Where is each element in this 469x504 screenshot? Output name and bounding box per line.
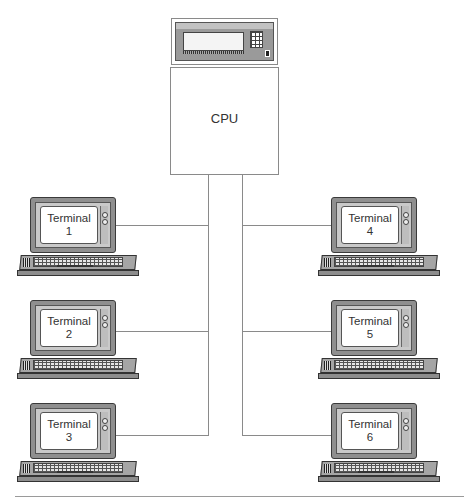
cpu-console-unit bbox=[171, 18, 278, 65]
terminal-number: 6 bbox=[342, 431, 398, 444]
terminal-screen: Terminal 4 bbox=[341, 206, 399, 244]
cpu-console-panel bbox=[175, 22, 274, 61]
terminal-number: 2 bbox=[41, 328, 97, 341]
footer-divider bbox=[15, 496, 464, 497]
terminal-number: 4 bbox=[342, 225, 398, 238]
terminal-screen: Terminal 6 bbox=[341, 412, 399, 450]
control-panel bbox=[100, 206, 108, 244]
monitor-icon: Terminal 6 bbox=[331, 403, 417, 459]
keyboard-icon bbox=[318, 255, 440, 276]
console-bevel bbox=[176, 23, 273, 29]
terminal-4: Terminal 4 bbox=[318, 197, 442, 282]
wire-trunk-right bbox=[242, 175, 243, 436]
knob-icon bbox=[102, 219, 108, 225]
terminal-label: Terminal bbox=[41, 315, 97, 328]
knob-icon bbox=[102, 418, 108, 424]
keyboard-icon bbox=[17, 358, 139, 379]
cpu-box: CPU bbox=[170, 67, 279, 175]
knob-icon bbox=[102, 425, 108, 431]
function-keys bbox=[324, 464, 331, 473]
keyboard-icon bbox=[318, 461, 440, 482]
control-panel bbox=[100, 412, 108, 450]
function-keys bbox=[324, 361, 331, 370]
keyboard-front bbox=[318, 476, 440, 482]
cpu-label: CPU bbox=[171, 111, 278, 126]
spacebar bbox=[57, 471, 93, 473]
monitor-icon: Terminal 3 bbox=[30, 403, 116, 459]
knob-icon bbox=[403, 315, 409, 321]
function-keys bbox=[23, 361, 30, 370]
keypad-icon bbox=[250, 31, 263, 48]
spacebar bbox=[57, 265, 93, 267]
keyboard-front bbox=[318, 373, 440, 379]
terminal-5: Terminal 5 bbox=[318, 300, 442, 385]
knob-icon bbox=[102, 322, 108, 328]
terminal-label: Terminal bbox=[342, 418, 398, 431]
control-panel bbox=[401, 412, 409, 450]
terminal-screen: Terminal 5 bbox=[341, 309, 399, 347]
monitor-icon: Terminal 1 bbox=[30, 197, 116, 253]
knob-icon bbox=[102, 212, 108, 218]
monitor-bezel: Terminal 6 bbox=[336, 408, 412, 454]
knob-icon bbox=[403, 212, 409, 218]
monitor-bezel: Terminal 5 bbox=[336, 305, 412, 351]
keyboard-front bbox=[17, 476, 139, 482]
monitor-bezel: Terminal 4 bbox=[336, 202, 412, 248]
function-keys bbox=[23, 258, 30, 267]
terminal-label: Terminal bbox=[342, 315, 398, 328]
monitor-bezel: Terminal 3 bbox=[35, 408, 111, 454]
terminal-number: 3 bbox=[41, 431, 97, 444]
terminal-label: Terminal bbox=[41, 418, 97, 431]
control-panel bbox=[401, 309, 409, 347]
knob-icon bbox=[403, 219, 409, 225]
terminal-screen: Terminal 1 bbox=[40, 206, 98, 244]
function-keys bbox=[324, 258, 331, 267]
keyboard-icon bbox=[17, 461, 139, 482]
terminal-number: 1 bbox=[41, 225, 97, 238]
wire-trunk-left bbox=[208, 175, 209, 436]
terminal-number: 5 bbox=[342, 328, 398, 341]
terminal-1: Terminal 1 bbox=[17, 197, 141, 282]
monitor-icon: Terminal 5 bbox=[331, 300, 417, 356]
spacebar bbox=[57, 368, 93, 370]
terminal-3: Terminal 3 bbox=[17, 403, 141, 488]
keyboard-icon bbox=[17, 255, 139, 276]
terminal-6: Terminal 6 bbox=[318, 403, 442, 488]
knob-icon bbox=[102, 315, 108, 321]
terminal-2: Terminal 2 bbox=[17, 300, 141, 385]
terminal-screen: Terminal 2 bbox=[40, 309, 98, 347]
power-switch-icon bbox=[265, 50, 270, 57]
knob-icon bbox=[403, 322, 409, 328]
monitor-icon: Terminal 2 bbox=[30, 300, 116, 356]
keyboard-icon bbox=[318, 358, 440, 379]
console-keys-strip bbox=[183, 51, 244, 54]
terminal-label: Terminal bbox=[41, 212, 97, 225]
keyboard-front bbox=[17, 373, 139, 379]
function-keys bbox=[23, 464, 30, 473]
keyboard-front bbox=[318, 270, 440, 276]
control-panel bbox=[401, 206, 409, 244]
spacebar bbox=[358, 471, 394, 473]
console-display-icon bbox=[183, 32, 244, 51]
control-panel bbox=[100, 309, 108, 347]
monitor-icon: Terminal 4 bbox=[331, 197, 417, 253]
spacebar bbox=[358, 265, 394, 267]
monitor-bezel: Terminal 2 bbox=[35, 305, 111, 351]
keyboard-front bbox=[17, 270, 139, 276]
knob-icon bbox=[403, 418, 409, 424]
terminal-screen: Terminal 3 bbox=[40, 412, 98, 450]
terminal-label: Terminal bbox=[342, 212, 398, 225]
knob-icon bbox=[403, 425, 409, 431]
spacebar bbox=[358, 368, 394, 370]
monitor-bezel: Terminal 1 bbox=[35, 202, 111, 248]
